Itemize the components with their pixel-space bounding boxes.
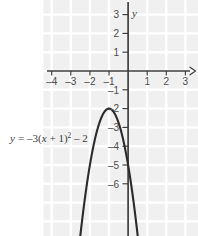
y-tick-label--6: –6 xyxy=(108,179,120,190)
parabola-figure: y –4 –3 –2 –1 1 2 3 3 2 1 –1 –2 –3 –4 –5… xyxy=(0,0,198,236)
plot-area-background xyxy=(42,0,198,236)
x-tick-label--4: –4 xyxy=(46,76,58,87)
x-tick-label--3: –3 xyxy=(65,76,77,87)
y-tick-label--5: –5 xyxy=(108,160,120,171)
x-tick-label--2: –2 xyxy=(84,76,96,87)
x-tick-label-1: 1 xyxy=(144,76,150,87)
y-tick-label--1: –1 xyxy=(108,85,120,96)
y-tick-label--3: –3 xyxy=(108,122,120,133)
equation-annotation: y=–3(x + 1)2 – 2 xyxy=(9,131,88,145)
equation-constant: – 2 xyxy=(71,132,88,144)
y-axis-label: y xyxy=(131,7,137,19)
equation-equals: = xyxy=(18,132,24,144)
x-tick-label-2: 2 xyxy=(164,76,170,87)
y-tick-label-3: 3 xyxy=(113,9,119,20)
equation-inner: + 1) xyxy=(47,132,68,145)
x-tick-label-3: 3 xyxy=(183,76,189,87)
y-tick-label-1: 1 xyxy=(113,47,119,58)
equation-coefficient: –3( xyxy=(26,132,42,145)
equation-lhs: y xyxy=(9,132,15,144)
y-tick-label--2: –2 xyxy=(108,103,120,114)
y-tick-label-2: 2 xyxy=(113,28,119,39)
y-tick-label--4: –4 xyxy=(108,141,120,152)
